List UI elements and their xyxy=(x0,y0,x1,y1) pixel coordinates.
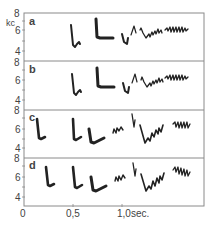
y-tick-label: 8 xyxy=(14,57,20,68)
y-tick-label: 6 xyxy=(15,75,21,86)
y-axis: 8 kc 6 4 8 6 4 8 6 4 8 6 4 xyxy=(6,8,21,203)
panel-b-traces xyxy=(72,68,188,95)
y-tick-label: 4 xyxy=(15,192,21,203)
y-tick-label: 6 xyxy=(15,25,21,36)
y-tick-label: 4 xyxy=(15,46,21,57)
y-tick-label: 8 xyxy=(14,153,20,164)
sonagram-traces xyxy=(37,19,190,191)
panel-label-b: b xyxy=(29,63,36,75)
x-tick-label: 0,5 xyxy=(66,208,80,219)
y-tick-label: 6 xyxy=(15,172,21,183)
x-axis: 0 0,5 1,0sec. xyxy=(20,208,149,219)
y-tick-label: 6 xyxy=(15,124,21,135)
sonagram-figure: 8 kc 6 4 8 6 4 8 6 4 8 6 4 a b c d 0 0,5… xyxy=(0,0,219,230)
panel-label-c: c xyxy=(29,111,35,123)
x-tick-label: 0 xyxy=(20,208,26,219)
x-tick-label: 1,0sec. xyxy=(117,208,149,219)
panel-d-traces xyxy=(46,163,190,191)
panel-a-traces xyxy=(71,19,188,47)
panel-label-d: d xyxy=(29,159,36,171)
panel-c-traces xyxy=(37,114,190,143)
panel-label-a: a xyxy=(29,15,36,27)
y-tick-label: 8 xyxy=(14,105,20,116)
